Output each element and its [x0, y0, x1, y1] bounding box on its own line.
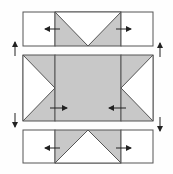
bottom-row — [23, 130, 153, 163]
middle-right-flying-geese-unit — [121, 55, 153, 121]
bottom-flying-geese-unit — [55, 130, 121, 163]
middle-row — [23, 55, 153, 121]
quilt-block-diagram — [0, 0, 173, 174]
bottom-right-corner-square — [121, 130, 153, 163]
top-row — [23, 12, 153, 46]
bottom-left-corner-square — [23, 130, 55, 163]
center-square — [55, 55, 121, 121]
top-flying-geese-unit — [55, 12, 121, 46]
middle-left-flying-geese-unit — [23, 55, 55, 121]
